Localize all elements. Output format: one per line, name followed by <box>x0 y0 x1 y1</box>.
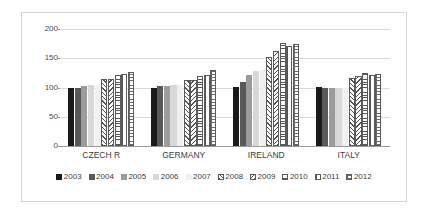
bar-ireland-2006[interactable] <box>253 71 259 146</box>
bar-ireland-2007[interactable] <box>260 70 266 146</box>
bar-italy-2007[interactable] <box>342 88 348 147</box>
bar-group-czech-r <box>60 29 143 146</box>
legend-item-2008[interactable]: 2008 <box>218 173 243 181</box>
bar-italy-2010[interactable] <box>362 73 368 146</box>
bar-group-ireland <box>225 29 308 146</box>
bar-germany-2009[interactable] <box>190 80 196 146</box>
legend-item-2003[interactable]: 2003 <box>56 173 81 181</box>
bar-ireland-2003[interactable] <box>233 87 239 146</box>
legend-label-2007: 2007 <box>193 173 211 181</box>
bar-czech-r-2012[interactable] <box>128 72 134 146</box>
legend-item-2012[interactable]: 2012 <box>346 173 371 181</box>
bar-germany-2008[interactable] <box>184 80 190 146</box>
legend-swatch-2008 <box>218 174 224 180</box>
y-axis-tick-label-150: 150 <box>24 54 58 62</box>
bar-czech-r-2008[interactable] <box>101 79 107 146</box>
legend-item-2004[interactable]: 2004 <box>89 173 114 181</box>
legend-swatch-2010 <box>282 174 288 180</box>
bar-ireland-2008[interactable] <box>266 57 272 146</box>
bar-italy-2009[interactable] <box>355 76 361 146</box>
bar-italy-2004[interactable] <box>322 88 328 146</box>
bar-germany-2006[interactable] <box>170 85 176 146</box>
y-axis-tick-label-200: 200 <box>24 25 58 33</box>
bar-ireland-2009[interactable] <box>273 51 279 146</box>
bar-germany-2012[interactable] <box>210 70 216 146</box>
y-axis-tick-label-100: 100 <box>24 84 58 92</box>
legend-label-2008: 2008 <box>225 173 243 181</box>
x-axis-label-ireland: IRELAND <box>225 150 308 160</box>
bar-ireland-2005[interactable] <box>246 75 252 146</box>
bar-czech-r-2005[interactable] <box>81 86 87 146</box>
y-axis-tick-label-0: 0 <box>24 142 58 150</box>
bar-ireland-2012[interactable] <box>293 44 299 146</box>
legend-swatch-2006 <box>153 174 159 180</box>
bar-germany-2010[interactable] <box>197 76 203 146</box>
bar-group-italy <box>308 29 391 146</box>
bar-italy-2006[interactable] <box>335 88 341 147</box>
bar-ireland-2011[interactable] <box>286 46 292 146</box>
bar-italy-2008[interactable] <box>349 78 355 146</box>
legend-item-2011[interactable]: 2011 <box>315 173 340 181</box>
bar-czech-r-2011[interactable] <box>121 74 127 146</box>
axis-baseline <box>60 146 390 147</box>
legend-swatch-2011 <box>315 174 321 180</box>
bar-italy-2012[interactable] <box>375 74 381 146</box>
chart-frame: 050100150200 CZECH RGERMANYIRELANDITALY … <box>21 12 407 202</box>
legend-label-2005: 2005 <box>128 173 146 181</box>
legend-label-2003: 2003 <box>64 173 82 181</box>
x-axis-label-czech-r: CZECH R <box>60 150 143 160</box>
legend-swatch-2005 <box>121 174 127 180</box>
bar-czech-r-2009[interactable] <box>108 79 114 146</box>
bar-germany-2011[interactable] <box>204 75 210 146</box>
legend-swatch-2004 <box>89 174 95 180</box>
bar-ireland-2004[interactable] <box>240 82 246 146</box>
legend-label-2010: 2010 <box>290 173 308 181</box>
legend-swatch-2009 <box>250 174 256 180</box>
bar-ireland-2010[interactable] <box>280 43 286 146</box>
bar-germany-2005[interactable] <box>164 86 170 146</box>
bar-italy-2003[interactable] <box>316 87 322 146</box>
bar-czech-r-2004[interactable] <box>75 88 81 147</box>
y-axis-tick-label-50: 50 <box>24 113 58 121</box>
x-axis-label-germany: GERMANY <box>143 150 226 160</box>
bar-germany-2007[interactable] <box>177 85 183 146</box>
bar-germany-2004[interactable] <box>157 86 163 146</box>
bar-czech-r-2010[interactable] <box>115 75 121 146</box>
legend-item-2010[interactable]: 2010 <box>282 173 307 181</box>
legend-label-2009: 2009 <box>258 173 276 181</box>
legend-label-2006: 2006 <box>161 173 179 181</box>
y-axis: 050100150200 <box>22 29 58 146</box>
plot-area: CZECH RGERMANYIRELANDITALY <box>60 29 390 146</box>
legend-label-2004: 2004 <box>96 173 114 181</box>
bar-group-germany <box>143 29 226 146</box>
legend-swatch-2007 <box>186 174 192 180</box>
bar-czech-r-2006[interactable] <box>88 85 94 146</box>
bar-italy-2011[interactable] <box>369 75 375 146</box>
legend-swatch-2012 <box>346 174 352 180</box>
legend-item-2007[interactable]: 2007 <box>186 173 211 181</box>
legend-item-2009[interactable]: 2009 <box>250 173 275 181</box>
bar-czech-r-2003[interactable] <box>68 88 74 147</box>
bar-czech-r-2007[interactable] <box>95 85 101 146</box>
legend-label-2012: 2012 <box>354 173 372 181</box>
legend-item-2006[interactable]: 2006 <box>153 173 178 181</box>
x-axis-label-italy: ITALY <box>308 150 391 160</box>
chart-legend: 2003200420052006200720082009201020112012 <box>22 173 406 181</box>
bar-italy-2005[interactable] <box>329 88 335 146</box>
legend-label-2011: 2011 <box>322 173 339 181</box>
legend-swatch-2003 <box>56 174 62 180</box>
bar-germany-2003[interactable] <box>151 88 157 147</box>
legend-item-2005[interactable]: 2005 <box>121 173 146 181</box>
